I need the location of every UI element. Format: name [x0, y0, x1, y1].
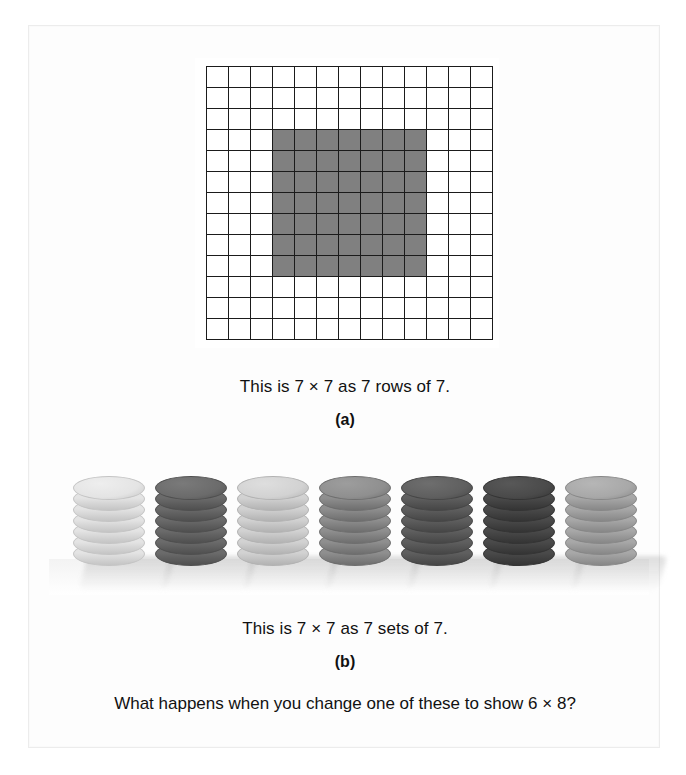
- grid-cell-shaded: [317, 256, 339, 277]
- grid-cell: [229, 109, 251, 130]
- grid-cell-shaded: [295, 151, 317, 172]
- figure-a-label: (a): [29, 411, 661, 429]
- grid-cell: [273, 298, 295, 319]
- grid-cell: [471, 277, 493, 298]
- grid-cell: [427, 214, 449, 235]
- grid-cell: [449, 256, 471, 277]
- grid-cell: [207, 193, 229, 214]
- grid-cell: [251, 109, 273, 130]
- grid-cell-shaded: [383, 151, 405, 172]
- grid-cell: [361, 277, 383, 298]
- grid-cell: [383, 298, 405, 319]
- grid-cell-shaded: [383, 193, 405, 214]
- grid-cell: [361, 298, 383, 319]
- grid-cell: [295, 67, 317, 88]
- grid-cell: [449, 214, 471, 235]
- grid-cell: [229, 88, 251, 109]
- grid-cell-shaded: [295, 235, 317, 256]
- grid-cell: [471, 193, 493, 214]
- grid-cell: [251, 214, 273, 235]
- grid-cell: [405, 88, 427, 109]
- coin-top: [565, 476, 637, 500]
- coin-top: [319, 476, 391, 500]
- grid-cell: [229, 193, 251, 214]
- grid-cell-shaded: [273, 130, 295, 151]
- grid-cell-shaded: [317, 193, 339, 214]
- grid-cell: [383, 88, 405, 109]
- grid-cell-shaded: [361, 235, 383, 256]
- coin-top: [401, 476, 473, 500]
- grid-cell: [405, 319, 427, 340]
- grid-cell: [449, 130, 471, 151]
- figure-b: [29, 451, 661, 611]
- figure-b-caption: This is 7 × 7 as 7 sets of 7.: [29, 619, 661, 639]
- grid-cell: [273, 319, 295, 340]
- grid-cell-shaded: [361, 172, 383, 193]
- grid-cell: [383, 319, 405, 340]
- coin-stack: [237, 462, 309, 566]
- figure-a-caption: This is 7 × 7 as 7 rows of 7.: [29, 377, 661, 397]
- grid-cell-shaded: [273, 235, 295, 256]
- grid-cell: [207, 130, 229, 151]
- grid-cell: [427, 67, 449, 88]
- grid-cell: [229, 214, 251, 235]
- coin-stack: [73, 462, 145, 566]
- grid-cell-shaded: [295, 214, 317, 235]
- grid-cell: [207, 151, 229, 172]
- grid-cell: [207, 235, 229, 256]
- question-text: What happens when you change one of thes…: [29, 694, 661, 714]
- grid-cell: [251, 319, 273, 340]
- coin-stack: [483, 462, 555, 566]
- grid-cell: [339, 88, 361, 109]
- grid-panel: [195, 58, 499, 348]
- grid-cell: [207, 214, 229, 235]
- grid-cell: [251, 193, 273, 214]
- grid-cell: [449, 235, 471, 256]
- grid-cell-shaded: [317, 151, 339, 172]
- grid-cell: [405, 298, 427, 319]
- grid-cell: [361, 109, 383, 130]
- grid-cell: [449, 298, 471, 319]
- grid-cell: [207, 319, 229, 340]
- grid-cell: [273, 109, 295, 130]
- grid-cell: [449, 67, 471, 88]
- grid-cell-shaded: [273, 151, 295, 172]
- grid-cell: [317, 109, 339, 130]
- grid-cell-shaded: [361, 193, 383, 214]
- grid-cell-shaded: [405, 256, 427, 277]
- grid-cell: [361, 67, 383, 88]
- grid-cell: [405, 109, 427, 130]
- grid-cell-shaded: [317, 172, 339, 193]
- grid-cell-shaded: [339, 193, 361, 214]
- grid-cell: [449, 277, 471, 298]
- grid-cell-shaded: [273, 193, 295, 214]
- grid-cell: [251, 172, 273, 193]
- grid-cell: [229, 319, 251, 340]
- grid-cell: [207, 277, 229, 298]
- grid-cell: [251, 88, 273, 109]
- grid-cell: [471, 172, 493, 193]
- grid-cell-shaded: [405, 235, 427, 256]
- grid-cell: [361, 88, 383, 109]
- grid-cell: [273, 67, 295, 88]
- grid-cell: [295, 109, 317, 130]
- grid-cell: [251, 235, 273, 256]
- grid-cell: [471, 67, 493, 88]
- page-frame: This is 7 × 7 as 7 rows of 7. (a) This i…: [28, 25, 660, 748]
- grid-cell-shaded: [383, 256, 405, 277]
- grid-cell-shaded: [361, 130, 383, 151]
- grid-cell: [251, 298, 273, 319]
- grid-cell: [471, 109, 493, 130]
- grid-cell-shaded: [339, 214, 361, 235]
- coin-stack: [319, 462, 391, 566]
- grid-cell: [251, 256, 273, 277]
- grid-cell: [405, 277, 427, 298]
- coin-stacks-row: [29, 451, 661, 596]
- grid-cell: [471, 88, 493, 109]
- grid-cell-shaded: [339, 235, 361, 256]
- grid-cell-shaded: [383, 130, 405, 151]
- grid-cell-shaded: [295, 193, 317, 214]
- grid-cell: [207, 298, 229, 319]
- grid-cell: [229, 256, 251, 277]
- grid-cell-shaded: [405, 193, 427, 214]
